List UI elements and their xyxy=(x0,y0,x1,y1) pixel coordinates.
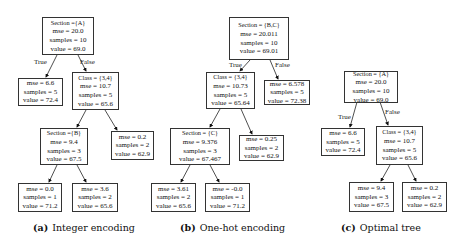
node-condition: Section = {C} xyxy=(173,129,227,138)
tree-leaf: mse = 0.2 samples = 2 value = 62.9 xyxy=(111,131,154,160)
tree-node-root: Section ={A} mse = 20.0 samples = 10 val… xyxy=(42,17,94,55)
tree-leaf: mse = 0.25 samples = 2 value = 62.9 xyxy=(239,135,284,161)
node-value: value = 71.2 xyxy=(208,202,247,211)
node-condition: Section ={B} xyxy=(43,129,85,138)
node-samples: samples = 3 xyxy=(352,193,391,202)
node-mse: mse = 20.0 xyxy=(45,27,91,36)
tree-leaf: mse = -0.0 samples = 1 value = 71.2 xyxy=(205,183,250,212)
node-samples: samples = 5 xyxy=(267,88,307,97)
node-mse: mse = 0.0 xyxy=(21,185,59,194)
caption-text: Integer encoding xyxy=(52,222,135,233)
tree-leaf: mse = 6.6 samples = 5 value = 72.4 xyxy=(18,78,63,106)
node-value: value = 67.5 xyxy=(43,155,85,164)
node-condition: Class = {3,4} xyxy=(75,74,116,83)
caption-c: (c)Optimal tree xyxy=(341,222,421,233)
node-value: value = 65.6 xyxy=(379,154,420,163)
node-value: value = 67.5 xyxy=(352,201,391,210)
node-samples: samples = 5 xyxy=(21,88,60,97)
node-samples: samples = 5 xyxy=(209,91,252,100)
node-samples: samples = 2 xyxy=(75,193,115,202)
node-samples: samples = 3 xyxy=(43,147,85,156)
node-mse: mse = 10.7 xyxy=(75,82,116,91)
node-mse: mse = 9.4 xyxy=(352,184,391,193)
node-value: value = 62.9 xyxy=(405,201,444,210)
tree-leaf: mse = 0.2 samples = 2 value = 62.9 xyxy=(402,182,447,212)
node-value: value = 71.2 xyxy=(21,202,59,211)
node-samples: samples = 10 xyxy=(232,39,286,48)
tree-leaf: mse = 3.6 samples = 2 value = 65.6 xyxy=(72,183,118,212)
node-mse: mse = 0.25 xyxy=(242,135,281,144)
node-condition: Section ={A} xyxy=(45,19,91,28)
node-samples: samples = 2 xyxy=(242,144,281,153)
node-value: value = 62.9 xyxy=(114,150,151,159)
node-value: value = 69.0 xyxy=(45,45,91,54)
tree-leaf: mse = 6.6 samples = 5 value = 72.4 xyxy=(321,128,365,156)
node-mse: mse = 0.2 xyxy=(405,184,444,193)
node-samples: samples = 5 xyxy=(324,138,362,147)
node-condition: Section = {B,C} xyxy=(232,21,286,30)
node-samples: samples = 2 xyxy=(405,193,444,202)
node-value: value = 65.6 xyxy=(75,100,116,109)
node-mse: mse = 6.6 xyxy=(324,129,362,138)
node-mse: mse = 20.0 xyxy=(347,78,395,87)
caption-text: One-hot encoding xyxy=(200,222,286,233)
tree-leaf: mse = 6.578 samples = 5 value = 72.38 xyxy=(264,80,310,105)
node-mse: mse = -0.0 xyxy=(208,185,247,194)
node-samples: samples = 5 xyxy=(379,146,420,155)
tree-node-split: Section ={B} mse = 9.4 samples = 3 value… xyxy=(40,128,88,165)
node-mse: mse = 10.73 xyxy=(209,82,252,91)
node-samples: samples = 10 xyxy=(45,36,91,45)
tree-leaf: mse = 0.0 samples = 1 value = 71.2 xyxy=(18,183,62,212)
caption-text: Optimal tree xyxy=(360,222,421,233)
node-mse: mse = 9.376 xyxy=(173,138,227,147)
node-samples: samples = 1 xyxy=(21,193,59,202)
node-samples: samples = 2 xyxy=(154,193,193,202)
caption-letter: (b) xyxy=(180,222,196,233)
node-condition: Section = {A} xyxy=(347,70,395,79)
node-value: value = 62.9 xyxy=(242,152,281,161)
node-mse: mse = 6.6 xyxy=(21,79,60,88)
tree-node-split: Class = {3,4} mse = 10.73 samples = 5 va… xyxy=(206,72,255,109)
node-samples: samples = 5 xyxy=(75,91,116,100)
node-mse: mse = 9.4 xyxy=(43,138,85,147)
node-value: value = 69.01 xyxy=(232,47,286,56)
node-value: value = 69.0 xyxy=(347,96,395,105)
node-condition: Class = {3,4} xyxy=(209,73,252,82)
node-samples: samples = 2 xyxy=(114,141,151,150)
tree-node-split: Class = {3,4} mse = 10.7 samples = 5 val… xyxy=(376,126,423,165)
node-value: value = 65.6 xyxy=(75,202,115,211)
node-value: value = 72.4 xyxy=(324,146,362,155)
node-mse: mse = 3.6 xyxy=(75,185,115,194)
edge-label-true: True xyxy=(338,113,351,121)
tree-node-root: Section = {A} mse = 20.0 samples = 10 va… xyxy=(344,71,398,103)
tree-node-root: Section = {B,C} mse = 20.011 samples = 1… xyxy=(229,17,289,60)
caption-letter: (a) xyxy=(33,222,48,233)
tree-node-split: Section = {C} mse = 9.376 samples = 3 va… xyxy=(170,128,230,165)
tree-node-split: Class = {3,4} mse = 10.7 samples = 5 val… xyxy=(72,72,119,110)
edge-label-false: False xyxy=(275,61,290,69)
node-samples: samples = 1 xyxy=(208,193,247,202)
node-mse: mse = 0.2 xyxy=(114,133,151,142)
edge-label-true: True xyxy=(229,61,242,69)
tree-leaf: mse = 3.61 samples = 2 value = 65.6 xyxy=(151,183,196,212)
node-samples: samples = 10 xyxy=(347,87,395,96)
node-value: value = 72.38 xyxy=(267,97,307,106)
edge-label-false: False xyxy=(385,108,400,116)
node-mse: mse = 20.011 xyxy=(232,30,286,39)
node-value: value = 67.467 xyxy=(173,155,227,164)
node-mse: mse = 6.578 xyxy=(267,80,307,89)
node-value: value = 72.4 xyxy=(21,96,60,105)
node-samples: samples = 3 xyxy=(173,147,227,156)
node-value: value = 65.64 xyxy=(209,99,252,108)
edge-label-true: True xyxy=(34,58,47,66)
node-condition: Class = {3,4} xyxy=(379,128,420,137)
node-value: value = 65.6 xyxy=(154,202,193,211)
node-mse: mse = 3.61 xyxy=(154,185,193,194)
caption-a: (a)Integer encoding xyxy=(33,222,135,233)
caption-b: (b)One-hot encoding xyxy=(180,222,285,233)
edge-label-false: False xyxy=(80,58,95,66)
node-mse: mse = 10.7 xyxy=(379,137,420,146)
tree-leaf: mse = 9.4 samples = 3 value = 67.5 xyxy=(349,182,394,212)
caption-letter: (c) xyxy=(341,222,356,233)
